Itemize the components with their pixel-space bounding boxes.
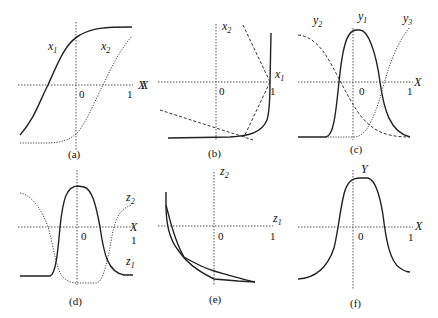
figure-canvas: x1 x2 X 0 1 (a) x2 x1 X 0 1 (b) y2 y1 y3…	[0, 0, 438, 318]
panel-f: Y X 0 1 (f)	[298, 162, 423, 310]
label-axis-x: X	[140, 78, 149, 92]
label-axis-x: X	[414, 219, 423, 233]
label-x1: x1	[47, 39, 57, 55]
label-x2: x2	[100, 39, 110, 55]
curve-y1	[298, 30, 410, 137]
line-lower	[160, 110, 253, 140]
tick-1: 1	[407, 85, 413, 97]
panel-b: x2 x1 X 0 1 (b)	[140, 19, 284, 160]
tick-1: 1	[408, 231, 414, 243]
tick-0: 0	[218, 230, 224, 242]
tick-0: 0	[359, 85, 365, 97]
panel-c: y2 y1 y3 X 0 1 (c)	[298, 9, 422, 156]
curve-Y	[298, 178, 410, 279]
panel-d: z2 z1 X 0 1 (d)	[18, 170, 138, 308]
label-y2: y2	[312, 13, 322, 29]
tick-0: 0	[358, 230, 364, 242]
label-z2-axis: z2	[219, 164, 229, 180]
label-z1: z1	[125, 254, 135, 270]
panel-a: x1 x2 X 0 1 (a)	[18, 22, 146, 161]
line-diagonal	[244, 82, 270, 137]
tick-1: 1	[127, 88, 133, 100]
label-Y: Y	[361, 162, 369, 176]
panel-e: z2 z1 0 1 (e)	[158, 164, 282, 306]
label-x1-axis: x1	[274, 67, 284, 83]
caption-e: (e)	[209, 293, 222, 306]
tick-1: 1	[131, 234, 137, 246]
label-y1: y1	[357, 9, 367, 25]
tick-0: 0	[79, 88, 85, 100]
curve-loop-outer	[166, 192, 255, 282]
label-y3: y3	[402, 11, 412, 27]
line-upper	[243, 25, 270, 82]
label-x2-axis: x2	[221, 19, 231, 35]
label-z1-axis: z1	[272, 211, 282, 227]
caption-a: (a)	[68, 148, 81, 161]
tick-0: 0	[219, 85, 225, 97]
tick-1: 1	[270, 230, 276, 242]
label-z2: z2	[125, 190, 135, 206]
caption-b: (b)	[208, 147, 221, 160]
tick-0: 0	[81, 230, 87, 242]
caption-f: (f)	[350, 297, 361, 310]
caption-d: (d)	[69, 295, 82, 308]
curve-z2	[20, 193, 132, 283]
curve-loop-inner	[166, 205, 255, 282]
caption-c: (c)	[350, 143, 363, 156]
label-axis-x: X	[413, 75, 422, 89]
curve-y2	[298, 35, 410, 137]
label-axis-x: X	[129, 220, 138, 234]
tick-1: 1	[270, 85, 276, 97]
